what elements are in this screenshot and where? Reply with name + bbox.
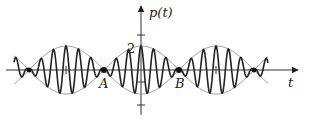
beat-signal-diagram: p(t) t 2 A B	[0, 0, 311, 121]
x-axis-label: t	[288, 75, 294, 90]
point-label-B: B	[174, 76, 185, 91]
node-point-A	[101, 67, 107, 73]
node-point-B	[176, 67, 182, 73]
node-point-left	[27, 68, 32, 73]
amplitude-label: 2	[127, 41, 135, 56]
y-axis-label: p(t)	[149, 5, 173, 20]
point-label-A: A	[98, 76, 108, 91]
diagram-canvas: p(t) t 2 A B	[0, 0, 311, 121]
node-point-right	[252, 68, 257, 73]
